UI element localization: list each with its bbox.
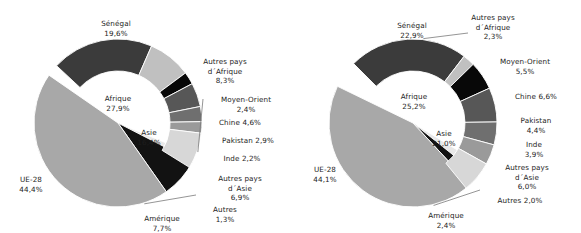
label-ue28-right: UE-28 44,1% xyxy=(298,156,352,194)
label-text: Pakistan xyxy=(521,116,552,125)
label-afrique-left: Afrique 27,9% xyxy=(90,85,146,123)
label-value: 1,3% xyxy=(197,215,253,224)
label-autres-afrique-right: Autres pays d´Afrique 2,3% xyxy=(450,4,536,51)
label-asie-right: Asie 21,0% xyxy=(422,120,466,158)
label-text: Afrique xyxy=(401,92,427,101)
label-value: 27,9% xyxy=(90,104,146,113)
label-value: 25,2% xyxy=(386,102,442,111)
label-text: Amérique xyxy=(428,211,464,220)
label-text: Sénégal xyxy=(101,19,131,28)
label-value: 5,5% xyxy=(482,67,568,76)
label-value: 2,4% xyxy=(410,221,482,230)
label-asie-left: Asie 16,4% xyxy=(127,119,171,157)
label-senegal-right: Sénégal 22,9% xyxy=(374,12,450,50)
label-text: Moyen-Orient xyxy=(500,57,550,66)
pie-charts-figure: Sénégal 19,6% Autres pays d´Afrique 8,3%… xyxy=(0,0,581,233)
label-value: 22,9% xyxy=(374,31,450,40)
label-chine-left: Chine 4,6% xyxy=(198,109,282,128)
label-value: 7,7% xyxy=(126,224,198,233)
label-text: Amérique xyxy=(144,214,180,223)
label-chine-right: Chine 6,6% xyxy=(496,83,576,102)
label-senegal-left: Sénégal 19,6% xyxy=(74,10,158,48)
label-value: 8,3% xyxy=(182,76,268,85)
label-value: 44,4% xyxy=(4,185,58,194)
label-text: Asie xyxy=(436,129,451,138)
label-value: 2,3% xyxy=(450,32,536,41)
label-text: Autres 2,0% xyxy=(498,196,543,205)
label-pakistan-left: Pakistan 2,9% xyxy=(206,127,290,146)
label-inde-left: Inde 2,2% xyxy=(203,145,281,164)
label-text: Inde 2,2% xyxy=(223,154,260,163)
label-text: UE-28 xyxy=(20,175,42,184)
label-value: 16,4% xyxy=(127,138,171,147)
label-text: Moyen-Orient xyxy=(221,95,271,104)
label-value: 19,6% xyxy=(74,29,158,38)
label-text: Inde xyxy=(526,140,542,149)
label-amerique-right: Amérique 2,4% xyxy=(410,202,482,233)
label-ue28-left: UE-28 44,4% xyxy=(4,166,58,204)
label-text: Chine 6,6% xyxy=(515,92,557,101)
label-text: Autres pays d´Afrique xyxy=(203,57,247,75)
label-afrique-right: Afrique 25,2% xyxy=(386,83,442,121)
label-amerique-left: Amérique 7,7% xyxy=(126,205,198,233)
label-text: Asie xyxy=(141,128,156,137)
label-text: Autres xyxy=(213,205,237,214)
label-autres-right: Autres 2,0% xyxy=(480,187,560,206)
label-text: Sénégal xyxy=(397,21,427,30)
chart-right-panel: Sénégal 22,9% Autres pays d´Afrique 2,3%… xyxy=(290,0,581,233)
label-text: UE-28 xyxy=(314,165,336,174)
label-moyen-orient-right: Moyen-Orient 5,5% xyxy=(482,48,568,86)
label-text: Autres pays d´Asie xyxy=(505,163,549,181)
label-text: Autres pays d´Asie xyxy=(218,174,262,192)
label-text: Afrique xyxy=(105,94,131,103)
label-text: Autres pays d´Afrique xyxy=(471,13,515,31)
label-value: 44,1% xyxy=(298,175,352,184)
label-autres-left: Autres 1,3% xyxy=(197,196,253,233)
label-value: 21,0% xyxy=(422,139,466,148)
chart-left-panel: Sénégal 19,6% Autres pays d´Afrique 8,3%… xyxy=(0,0,291,233)
